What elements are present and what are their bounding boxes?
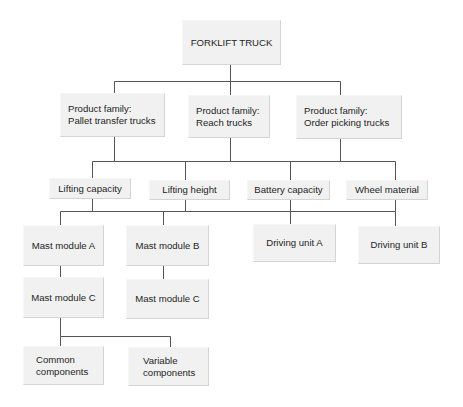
- node-family-order-picking: Product family: Order picking trucks: [296, 95, 402, 139]
- node-family-pallet-transfer: Product family: Pallet transfer trucks: [60, 93, 165, 137]
- node-lifting-height: Lifting height: [149, 180, 230, 200]
- node-label: Mast module A: [32, 240, 95, 252]
- node-mast-module-a: Mast module A: [23, 225, 104, 266]
- node-label: Product family: Pallet transfer trucks: [68, 103, 155, 127]
- node-label: FORKLIFT TRUCK: [191, 37, 273, 49]
- node-driving-unit-a: Driving unit A: [253, 224, 336, 262]
- node-label: Mast module C: [31, 292, 96, 304]
- node-label: Driving unit B: [370, 239, 427, 251]
- node-label: Driving unit A: [266, 237, 323, 249]
- node-lifting-capacity: Lifting capacity: [49, 178, 131, 199]
- node-label: Variable components: [143, 355, 195, 379]
- node-common-components: Common components: [23, 346, 104, 385]
- node-label: Common components: [36, 354, 88, 378]
- node-mast-module-c-right: Mast module C: [126, 279, 209, 319]
- node-mast-module-c-left: Mast module C: [23, 277, 104, 318]
- node-label: Mast module B: [136, 240, 200, 252]
- forklift-hierarchy-diagram: FORKLIFT TRUCK Product family: Pallet tr…: [0, 0, 463, 407]
- node-label: Product family: Order picking trucks: [304, 105, 389, 129]
- node-battery-capacity: Battery capacity: [247, 180, 330, 200]
- node-wheel-material: Wheel material: [346, 180, 428, 200]
- node-driving-unit-b: Driving unit B: [358, 226, 440, 264]
- node-family-reach: Product family: Reach trucks: [188, 95, 270, 138]
- node-label: Mast module C: [135, 293, 200, 305]
- node-label: Lifting height: [162, 184, 216, 196]
- node-forklift-truck: FORKLIFT TRUCK: [182, 20, 281, 65]
- node-variable-components: Variable components: [128, 347, 209, 386]
- node-label: Wheel material: [355, 184, 419, 196]
- node-label: Battery capacity: [254, 184, 322, 196]
- node-mast-module-b: Mast module B: [126, 225, 209, 266]
- node-label: Lifting capacity: [58, 183, 121, 195]
- node-label: Product family: Reach trucks: [196, 105, 259, 129]
